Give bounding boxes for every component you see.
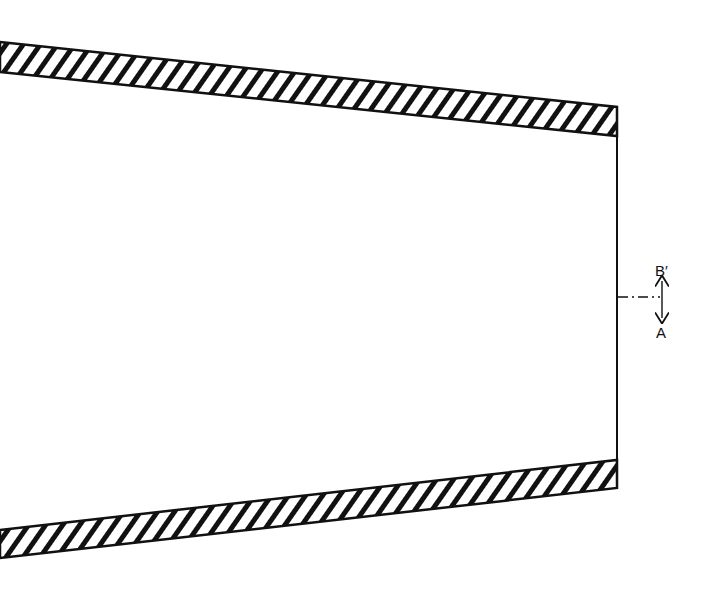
top-wall [0,42,617,136]
bottom-wall [0,460,617,558]
label-b-prime: B′ [655,262,668,279]
diagram-canvas: B′ A [0,0,714,591]
label-a: A [656,324,666,341]
